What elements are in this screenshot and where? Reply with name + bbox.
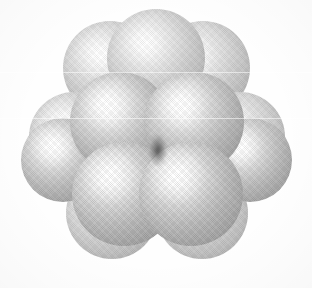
crevice-center-contact bbox=[149, 134, 167, 166]
figure-root bbox=[0, 0, 312, 288]
sphere-cluster-illustration bbox=[0, 0, 312, 288]
